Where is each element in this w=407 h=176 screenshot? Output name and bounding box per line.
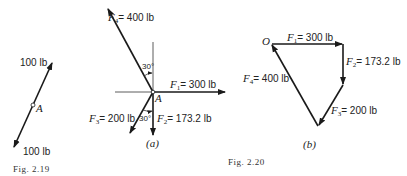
point-a-label: A bbox=[35, 102, 43, 114]
force-f4-arrow bbox=[272, 45, 318, 126]
origin-o-label: O bbox=[262, 35, 270, 47]
part-b-label: (b) bbox=[303, 138, 316, 151]
angle-bottom-arc-icon bbox=[143, 110, 152, 111]
f3-label: F3= 200 lb bbox=[330, 104, 378, 118]
force-arrow-down bbox=[14, 105, 33, 147]
caption-fig-2-20: Fig. 2.20 bbox=[228, 157, 265, 167]
force-arrow-up bbox=[33, 63, 52, 105]
f4-label: F4= 400 lb bbox=[107, 11, 155, 25]
angle-top-arc-icon bbox=[144, 73, 152, 76]
force-bottom-label: 100 lb bbox=[23, 146, 51, 157]
f3-label: F3= 200 lb bbox=[88, 112, 136, 126]
angle-top-label: 30° bbox=[142, 62, 154, 71]
point-a-marker bbox=[31, 103, 35, 107]
point-a-label: A bbox=[154, 92, 162, 104]
angle-bottom-label: 30° bbox=[139, 114, 151, 123]
f2-label: F2= 173.2 lb bbox=[156, 112, 212, 126]
fig-2-20b: O F1= 300 lb F2= 173.2 lb F3= 200 lb F4=… bbox=[228, 31, 401, 167]
f4-label: F4= 400 lb bbox=[242, 72, 290, 86]
figure-canvas: 100 lb 100 lb A Fig. 2.19 30° 30° F4= 40… bbox=[0, 0, 407, 176]
caption-fig-2-19: Fig. 2.19 bbox=[13, 164, 50, 174]
f1-label: F1= 300 lb bbox=[169, 78, 217, 92]
f1-label: F1= 300 lb bbox=[286, 31, 334, 45]
fig-2-20a: 30° 30° F4= 400 lb F1= 300 lb F2= 173.2 … bbox=[88, 9, 225, 150]
part-a-label: (a) bbox=[146, 137, 159, 150]
fig-2-19: 100 lb 100 lb A Fig. 2.19 bbox=[13, 57, 52, 174]
force-top-label: 100 lb bbox=[20, 57, 48, 68]
f2-label: F2= 173.2 lb bbox=[345, 55, 401, 69]
